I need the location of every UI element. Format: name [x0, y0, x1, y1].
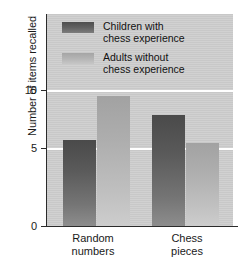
bar-random-numbers-children: [63, 140, 96, 226]
legend: Children with chess experience Adults wi…: [62, 20, 185, 82]
legend-label-adults: Adults without chess experience: [103, 51, 185, 75]
bar-chess-pieces-adults: [186, 143, 219, 226]
y-tick-label-5: 5: [11, 142, 37, 154]
legend-item-children: Children with chess experience: [62, 20, 185, 44]
legend-label-children: Children with chess experience: [103, 20, 185, 44]
y-tick-label-0: 0: [11, 220, 37, 232]
legend-item-adults: Adults without chess experience: [62, 51, 185, 75]
x-category-label-chess-pieces: Chess pieces: [152, 232, 222, 258]
y-axis-line: [46, 14, 47, 227]
plot-area: Children with chess experience Adults wi…: [47, 14, 233, 226]
gridline-10: [47, 90, 233, 92]
chart-figure: Number of items recalled Children with c…: [0, 0, 251, 266]
bar-chess-pieces-children: [152, 115, 185, 226]
x-category-label-random-numbers: Random numbers: [58, 232, 128, 258]
y-axis-title: Number of items recalled: [26, 0, 38, 156]
y-tick-label-10: 10: [11, 84, 37, 96]
y-tick-0: [41, 226, 47, 227]
x-axis-line: [41, 226, 238, 227]
legend-swatch-adults: [62, 53, 94, 64]
legend-swatch-children: [62, 22, 94, 33]
bar-random-numbers-adults: [97, 96, 130, 226]
